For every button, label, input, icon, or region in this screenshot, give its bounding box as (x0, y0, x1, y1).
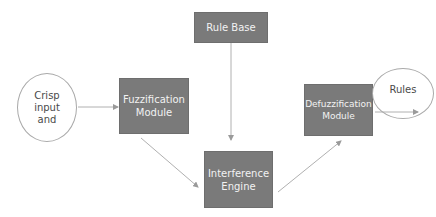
rule-base-node: Rule Base (194, 12, 268, 43)
edge-fuzzification-to-interference (141, 138, 198, 187)
rules-label: Rules (390, 84, 417, 96)
edge-interference-to-defuzzification (278, 141, 341, 192)
crisp-input-label: Crisp input and (34, 90, 60, 126)
interference-label: Interference Engine (208, 167, 269, 193)
rules-node: Rules (372, 68, 434, 119)
interference-engine-node: Interference Engine (204, 151, 273, 208)
fuzzification-module-node: Fuzzification Module (119, 78, 189, 134)
defuzzification-label: Defuzzification Module (305, 98, 372, 122)
fuzzification-label: Fuzzification Module (123, 93, 185, 119)
rule-base-label: Rule Base (206, 21, 255, 34)
defuzzification-module-node: Defuzzification Module (304, 84, 373, 136)
crisp-input-node: Crisp input and (17, 73, 77, 142)
